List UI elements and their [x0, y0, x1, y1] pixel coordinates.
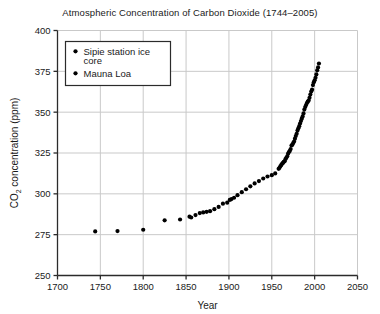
data-point [244, 187, 248, 191]
y-tick-label: 250 [35, 270, 51, 281]
x-tick-label: 1850 [176, 281, 197, 292]
x-axis-title: Year [197, 300, 218, 311]
x-tick-label: 1750 [90, 281, 111, 292]
data-point [235, 193, 239, 197]
legend-marker [73, 49, 77, 53]
data-points [93, 61, 321, 233]
y-tick-label: 300 [35, 188, 51, 199]
data-point [141, 228, 145, 232]
y-tick-label: 350 [35, 107, 51, 118]
data-point [93, 229, 97, 233]
series-1 [93, 171, 277, 233]
data-point [212, 207, 216, 211]
legend-marker [73, 71, 77, 75]
chart-legend: Sipie station icecoreMauna Loa [66, 42, 171, 86]
y-tick-label: 375 [35, 66, 51, 77]
data-point [189, 215, 193, 219]
data-point [240, 190, 244, 194]
x-tick-label: 2050 [347, 281, 368, 292]
data-point [316, 65, 320, 69]
y-tick-label: 400 [35, 25, 51, 36]
data-point [301, 111, 305, 115]
legend-label: Mauna Loa [84, 68, 132, 79]
x-tick-label: 1900 [218, 281, 239, 292]
data-point [317, 61, 321, 65]
data-point [265, 174, 269, 178]
data-point [232, 196, 236, 200]
y-axis-title: CO2 concentration (ppm) [9, 98, 22, 209]
data-point [221, 202, 225, 206]
data-point [217, 205, 221, 209]
data-point [178, 217, 182, 221]
data-point [208, 209, 212, 213]
data-point [253, 181, 257, 185]
x-tick-label: 1800 [133, 281, 154, 292]
data-point [193, 213, 197, 217]
data-point [115, 229, 119, 233]
data-point [314, 72, 318, 76]
x-tick-label: 2000 [304, 281, 325, 292]
data-point [257, 179, 261, 183]
x-tick-label: 1950 [261, 281, 282, 292]
data-point [310, 88, 314, 92]
chart-plot-area: 2502753003253503754001700175018001850190… [0, 0, 380, 314]
y-tick-label: 325 [35, 147, 51, 158]
y-tick-label: 275 [35, 229, 51, 240]
chart-figure: Atmospheric Concentration of Carbon Diox… [0, 0, 380, 314]
data-point [248, 184, 252, 188]
x-tick-label: 1700 [47, 281, 68, 292]
data-point [163, 218, 167, 222]
legend-label-continued: core [84, 55, 102, 66]
data-point [289, 147, 293, 151]
data-point [273, 171, 277, 175]
data-point [261, 176, 265, 180]
